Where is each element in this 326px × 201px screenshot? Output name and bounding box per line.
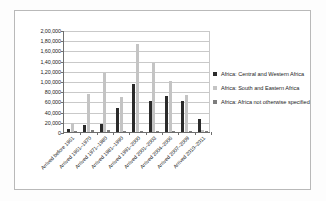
- legend-swatch-icon: [213, 100, 217, 104]
- legend-item-label: Africa: South and Eastern Africa: [221, 85, 299, 92]
- legend-item: Africa: Central and Western Africa: [213, 71, 319, 78]
- y-axis-labels: 2,00,0001,80,0001,60,0001,40,0001,20,000…: [15, 31, 61, 133]
- legend-swatch-icon: [213, 86, 217, 90]
- y-axis-tick: [61, 92, 64, 93]
- legend-item: Africa: Africa not otherwise specified: [213, 99, 319, 106]
- y-axis-tick: [61, 133, 64, 134]
- y-axis-tick-label: 60,000: [45, 99, 61, 105]
- y-axis-tick-label: 1,20,000: [40, 69, 61, 75]
- y-axis-tick-label: 80,000: [45, 89, 61, 95]
- y-axis-tick-label: 40,000: [45, 110, 61, 116]
- bar: [67, 129, 70, 132]
- y-axis-tick: [61, 41, 64, 42]
- y-axis-tick: [61, 102, 64, 103]
- y-axis-tick-label: 1,60,000: [40, 48, 61, 54]
- y-axis-tick: [61, 31, 64, 32]
- y-axis-tick: [61, 51, 64, 52]
- y-axis-tick-label: 1,80,000: [40, 38, 61, 44]
- y-axis-tick: [61, 113, 64, 114]
- legend-swatch-icon: [213, 72, 217, 76]
- y-axis-tick-label: 1,00,000: [40, 79, 61, 85]
- y-axis-tick: [61, 72, 64, 73]
- y-axis-tick: [61, 82, 64, 83]
- legend-item-label: Africa: Africa not otherwise specified: [221, 99, 310, 106]
- legend-item: Africa: South and Eastern Africa: [213, 85, 319, 92]
- chart-frame: 2,00,0001,80,0001,60,0001,40,0001,20,000…: [14, 10, 311, 190]
- chart-figure: 2,00,0001,80,0001,60,0001,40,0001,20,000…: [0, 0, 326, 201]
- y-axis-tick: [61, 123, 64, 124]
- y-axis-tick: [61, 62, 64, 63]
- bar-group: [67, 30, 77, 132]
- legend-item-label: Africa: Central and Western Africa: [221, 71, 304, 78]
- y-axis-tick-label: 2,00,000: [40, 28, 61, 34]
- y-axis-tick-label: 20,000: [45, 120, 61, 126]
- bar: [71, 123, 74, 132]
- y-axis-tick-label: 1,40,000: [40, 59, 61, 65]
- chart-legend: Africa: Central and Western Africa Afric…: [213, 71, 319, 114]
- x-axis-labels: Arrived before 1961Arrived 1961–1970Arri…: [55, 135, 230, 197]
